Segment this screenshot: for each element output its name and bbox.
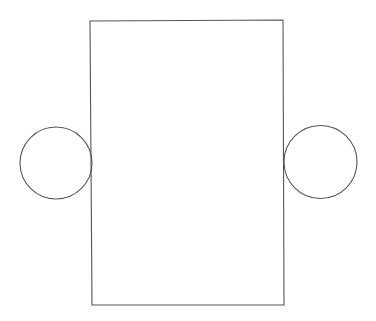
central-rectangle [90, 20, 284, 305]
right-circle [284, 126, 357, 199]
left-circle [20, 127, 92, 199]
diagram-canvas [0, 0, 376, 321]
